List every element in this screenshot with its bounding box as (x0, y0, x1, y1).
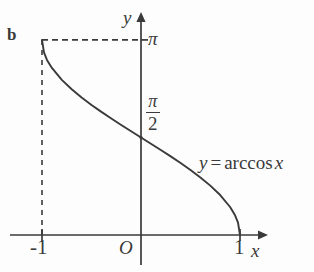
y-tick-label-pi-over-2-numerator: π (146, 92, 160, 111)
x-tick-label-neg-one: -1 (30, 237, 48, 258)
curve-equation-variable: x (275, 152, 283, 173)
curve-y-intercept-marker (139, 136, 142, 139)
x-axis (10, 230, 268, 239)
x-tick-label-one: 1 (234, 237, 245, 258)
y-axis-arrowhead (136, 12, 145, 22)
curve-equation-label: y=arccosx (199, 153, 283, 172)
curve-equation-function: arccos (224, 152, 273, 173)
y-tick-label-pi-over-2-denominator: 2 (146, 114, 160, 134)
y-tick-label-pi-over-2: π 2 (146, 92, 160, 134)
curve-equation-equals: = (207, 152, 224, 173)
arccos-graph-figure: b y x π π 2 -1 1 O y=arccosx (0, 0, 314, 272)
y-axis-label: y (123, 8, 131, 27)
x-axis-arrowhead (258, 230, 268, 239)
x-axis-label: x (251, 241, 259, 260)
y-tick-label-pi: π (148, 29, 158, 48)
origin-label: O (119, 238, 133, 257)
panel-letter: b (7, 26, 16, 43)
